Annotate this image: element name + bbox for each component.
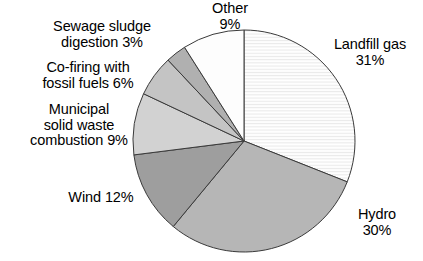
pie-label-wind: Wind 12% (42, 190, 160, 206)
pie-label-other: Other 9% (178, 1, 282, 32)
pie-chart: Other 9% Sewage sludge digestion 3% Co-f… (0, 0, 423, 261)
pie-label-landfill-gas: Landfill gas 31% (318, 37, 422, 68)
pie-label-sewage-sludge-digestion: Sewage sludge digestion 3% (14, 19, 190, 50)
pie-label-hydro: Hydro 30% (334, 207, 420, 238)
pie-label-co-firing-with-fossil-fuels: Co-firing with fossil fuels 6% (8, 60, 168, 91)
pie-label-municipal-solid-waste-combustion: Municipal solid waste combustion 9% (0, 102, 158, 149)
